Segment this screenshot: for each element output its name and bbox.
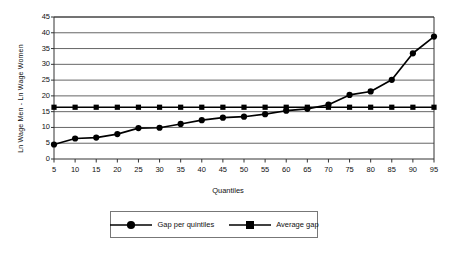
x-tick-label: 25 (134, 165, 142, 174)
y-tick-label: 25 (42, 76, 50, 84)
x-tick-label: 30 (155, 165, 163, 174)
x-tick-label: 55 (261, 165, 269, 174)
x-tick-label: 10 (71, 165, 79, 174)
y-tick-label: 35 (42, 45, 50, 53)
chart-container: Ln Wage Men - Ln Wage Women 051015202530… (0, 0, 456, 254)
x-tick-label: 45 (219, 165, 227, 174)
y-tick-label: 45 (42, 13, 50, 21)
x-tick-label: 95 (430, 165, 438, 174)
legend-item-average-gap[interactable]: Average gap (228, 219, 318, 231)
x-tick-label: 50 (240, 165, 248, 174)
gridlines (54, 17, 434, 143)
y-tick-label: 40 (42, 29, 50, 37)
y-tick-label: 0 (46, 155, 50, 163)
x-axis-ticks (54, 159, 434, 163)
y-tick-label: 5 (46, 139, 50, 147)
x-tick-label: 15 (92, 165, 100, 174)
x-tick-label: 60 (282, 165, 290, 174)
series-gap-per-quintiles (51, 33, 437, 147)
legend-label-gap-per-quintiles: Gap per quintiles (157, 220, 214, 229)
y-tick-label: 30 (42, 60, 50, 68)
chart-legend: Gap per quintiles Average gap (110, 211, 318, 238)
series-average-gap (51, 105, 436, 110)
x-tick-label: 70 (324, 165, 332, 174)
legend-item-gap-per-quintiles[interactable]: Gap per quintiles (109, 219, 214, 231)
x-tick-label: 5 (52, 165, 56, 174)
legend-marker-square-icon (228, 219, 272, 231)
x-tick-label: 85 (388, 165, 396, 174)
x-tick-label: 40 (198, 165, 206, 174)
x-tick-label: 65 (303, 165, 311, 174)
legend-marker-circle-icon (109, 219, 153, 231)
x-tick-label: 20 (113, 165, 121, 174)
x-tick-label: 80 (366, 165, 374, 174)
x-tick-label: 90 (409, 165, 417, 174)
x-axis-title: Quantiles (0, 186, 456, 195)
y-tick-label: 15 (42, 108, 50, 116)
y-tick-label: 20 (42, 92, 50, 100)
x-tick-label: 75 (345, 165, 353, 174)
legend-label-average-gap: Average gap (276, 220, 318, 229)
x-tick-label: 35 (176, 165, 184, 174)
y-tick-label: 10 (42, 123, 50, 131)
y-axis-tick-labels: 051015202530354045 (24, 0, 50, 254)
y-axis-title: Ln Wage Men - Ln Wage Women (17, 24, 24, 174)
